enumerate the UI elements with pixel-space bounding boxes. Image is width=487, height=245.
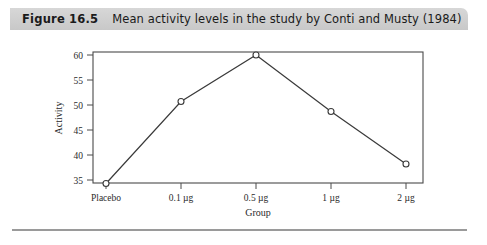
data-point-marker <box>328 109 334 115</box>
y-tick-label: 35 <box>74 176 84 186</box>
series-markers <box>103 52 409 187</box>
data-point-marker <box>253 52 259 58</box>
x-tick-label: Placebo <box>91 193 121 203</box>
y-tick-label: 60 <box>74 51 84 61</box>
data-point-marker <box>103 181 109 187</box>
y-tick-label: 50 <box>74 101 84 111</box>
x-tick-label: 0.1 µg <box>169 193 194 203</box>
y-axis-ticks <box>87 55 93 180</box>
figure-caption-band: Figure 16.5 Mean activity levels in the … <box>10 8 468 30</box>
x-axis-title: Group <box>245 207 271 218</box>
figure-caption-text: Mean activity levels in the study by Con… <box>98 12 461 26</box>
y-tick-label: 45 <box>74 126 84 136</box>
plot-frame <box>93 52 423 183</box>
y-axis-tick-labels: 60 55 50 45 40 35 <box>74 51 84 186</box>
x-tick-label: 0.5 µg <box>244 193 269 203</box>
data-point-marker <box>178 99 184 105</box>
series-line <box>106 55 406 184</box>
x-tick-label: 2 µg <box>397 193 415 203</box>
x-axis-ticks <box>106 183 406 189</box>
line-chart: 60 55 50 45 40 35 Activity Placebo 0.1 µ… <box>0 30 487 220</box>
data-point-marker <box>403 161 409 167</box>
x-tick-label: 1 µg <box>322 193 340 203</box>
y-tick-label: 55 <box>74 76 84 86</box>
y-axis-title: Activity <box>53 102 64 135</box>
x-axis-tick-labels: Placebo 0.1 µg 0.5 µg 1 µg 2 µg <box>91 193 415 203</box>
chart-canvas: 60 55 50 45 40 35 Activity Placebo 0.1 µ… <box>0 30 487 220</box>
figure-number: Figure 16.5 <box>10 12 98 26</box>
y-tick-label: 40 <box>74 151 84 161</box>
bottom-divider <box>12 229 467 231</box>
